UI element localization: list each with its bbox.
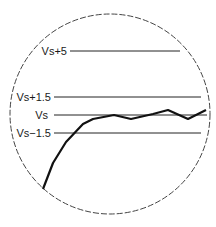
reference-line-label: Vs+5 <box>42 45 67 57</box>
reference-line-label: Vs−1.5 <box>16 127 51 139</box>
reference-line-label: Vs+1.5 <box>16 91 51 103</box>
response-curve <box>43 110 206 189</box>
reference-line-label: Vs <box>35 109 48 121</box>
reference-lines: Vs+5Vs+1.5VsVs−1.5 <box>16 45 207 139</box>
velocity-diagram: Vs+5Vs+1.5VsVs−1.5 <box>0 0 216 227</box>
